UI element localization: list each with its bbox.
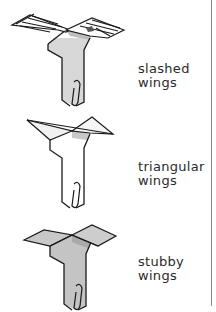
slashed-wings-helicopter [0,0,130,110]
triangular-label-line1: triangular [138,160,205,174]
stubby-label-line2: wings [138,269,184,283]
slashed-label-line1: slashed [138,62,190,76]
triangular-wings-drawing [0,110,130,210]
vertical-divider-line [211,0,212,306]
stubby-wings-helicopter [0,210,130,312]
triangular-wings-helicopter [0,110,130,210]
slashed-wings-label: slashed wings [138,62,190,90]
stubby-wings-label: stubby wings [138,255,184,283]
triangular-label-line2: wings [138,174,205,188]
slashed-label-line2: wings [138,76,190,90]
stubby-wings-drawing [0,210,130,312]
triangular-wings-label: triangular wings [138,160,205,188]
slashed-wings-drawing [0,0,130,110]
stubby-label-line1: stubby [138,255,184,269]
